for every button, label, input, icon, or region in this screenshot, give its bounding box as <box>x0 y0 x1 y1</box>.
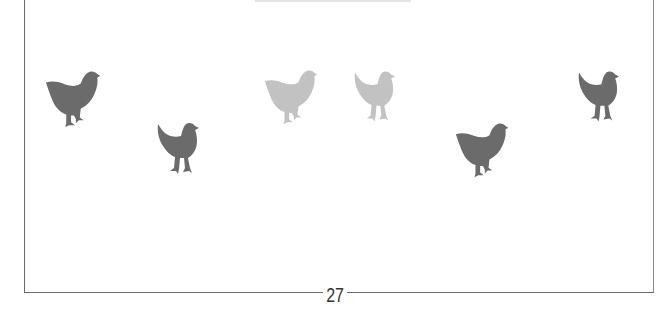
page-number: 27 <box>323 285 347 305</box>
hen-icon <box>155 122 201 182</box>
hen-icon <box>352 70 397 130</box>
hen-icon <box>454 120 510 182</box>
page-number-container: 27 <box>0 285 670 306</box>
hen-icon <box>576 70 621 130</box>
hen-icon <box>263 67 319 129</box>
hen-icon <box>44 69 102 131</box>
page-frame <box>24 0 654 293</box>
